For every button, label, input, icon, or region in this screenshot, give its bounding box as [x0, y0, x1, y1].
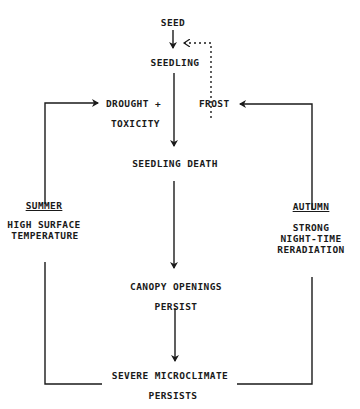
node-seed: SEED: [161, 17, 185, 28]
node-canopy-openings: CANOPY OPENINGS: [130, 281, 222, 292]
season-autumn-line1: STRONG: [293, 222, 330, 233]
node-severe-persists: PERSISTS: [149, 390, 198, 401]
season-summer-line2: TEMPERATURE: [11, 230, 78, 241]
season-summer-title: SUMMER: [26, 200, 63, 211]
autumn-loop-lower: [237, 277, 312, 384]
node-canopy-persist: PERSIST: [155, 301, 198, 312]
season-summer-line1: HIGH SURFACE: [7, 219, 80, 230]
node-toxicity: TOXICITY: [111, 118, 160, 129]
node-frost: FROST: [199, 98, 230, 109]
autumn-loop-upper: [240, 104, 312, 210]
node-drought: DROUGHT +: [106, 98, 161, 109]
season-autumn-line2: NIGHT-TIME: [280, 233, 341, 244]
season-autumn-title: AUTUMN: [293, 201, 330, 212]
summer-loop-upper: [45, 103, 98, 204]
summer-loop-lower: [45, 262, 102, 384]
node-seedling: SEEDLING: [151, 57, 200, 68]
season-autumn-line3: RERADIATION: [277, 244, 344, 255]
node-severe-microclimate: SEVERE MICROCLIMATE: [112, 370, 228, 381]
node-seedling-death: SEEDLING DEATH: [132, 158, 218, 169]
